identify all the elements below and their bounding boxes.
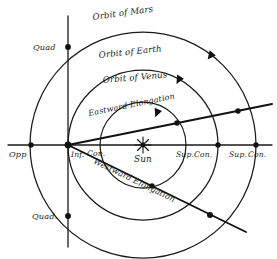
opposition-node-dot (28, 142, 33, 147)
superior-conjunction-2-dot (253, 142, 258, 147)
opposition-label: Opp (9, 149, 27, 159)
superior-conjunction-1-dot (215, 142, 220, 147)
svg-text:Sup.: Sup. (176, 150, 194, 159)
svg-text:Sun: Sun (134, 154, 152, 164)
quadrature-top-label: Quad (33, 42, 56, 52)
svg-text:Con.: Con. (87, 149, 105, 158)
venus-orbit-direction-arrow (151, 105, 163, 117)
orbit-of-earth-label: Orbit of Earth (98, 43, 162, 60)
eastward-mars-crossing-dot (235, 108, 240, 113)
svg-text:Sup.: Sup. (229, 150, 247, 159)
astronomy-diagram: Orbit of Mars Orbit of Earth Orbit of Ve… (0, 0, 277, 259)
venus-eastward-tangent-dot (174, 120, 179, 125)
svg-text:Orbit of Mars: Orbit of Mars (92, 4, 154, 22)
earth-inferior-conjunction-dot (65, 142, 72, 149)
inferior-conjunction-label: Inf. Con. (70, 149, 105, 159)
svg-text:Con.: Con. (248, 150, 266, 159)
orbit-diagram-canvas: Orbit of Mars Orbit of Earth Orbit of Ve… (0, 0, 277, 259)
quadrature-bottom-dot (65, 213, 71, 219)
svg-text:Con.: Con. (194, 150, 212, 159)
svg-text:Opp: Opp (9, 149, 27, 159)
earth-orbit-direction-arrow (173, 73, 185, 84)
svg-text:Eastward Elongation: Eastward Elongation (87, 92, 176, 119)
svg-text:Quad.: Quad. (32, 211, 57, 221)
westward-mars-crossing-dot (207, 212, 213, 218)
quadrature-bottom-label: Quad. (32, 211, 57, 221)
eastward-elongation-label: Eastward Elongation (87, 92, 176, 119)
superior-conjunction-2-label: Sup. Con. (229, 150, 266, 159)
superior-conjunction-1-label: Sup. Con. (176, 150, 212, 159)
sun-icon (135, 137, 151, 153)
svg-text:Orbit of Venus: Orbit of Venus (102, 69, 168, 85)
orbit-of-mars-label: Orbit of Mars (92, 4, 154, 22)
svg-text:Quad: Quad (33, 42, 56, 52)
orbit-of-venus-label: Orbit of Venus (102, 69, 168, 85)
sun-label: Sun (134, 154, 152, 164)
svg-text:Inf.: Inf. (70, 150, 84, 159)
svg-text:Orbit of Earth: Orbit of Earth (98, 43, 162, 60)
quadrature-top-dot (65, 44, 71, 50)
